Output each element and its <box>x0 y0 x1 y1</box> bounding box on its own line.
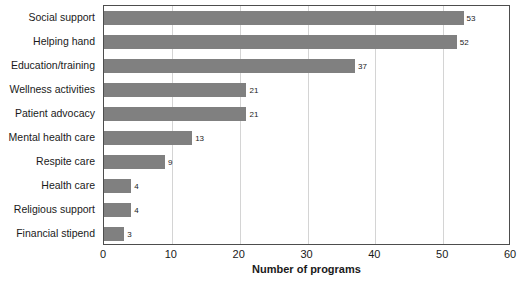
x-tick-label: 20 <box>233 248 245 260</box>
bar[interactable] <box>104 83 246 97</box>
bar-value-label: 3 <box>124 230 131 239</box>
category-label: Patient advocacy <box>0 106 95 120</box>
category-label: Helping hand <box>0 34 95 48</box>
bar[interactable] <box>104 227 124 241</box>
category-label: Religious support <box>0 202 95 216</box>
bar-value-label: 37 <box>355 62 367 71</box>
bar[interactable] <box>104 179 131 193</box>
x-axis-ticks: 0102030405060 <box>103 248 510 264</box>
category-label: Financial stipend <box>0 226 95 240</box>
bar[interactable] <box>104 203 131 217</box>
category-label: Respite care <box>0 154 95 168</box>
bar-value-label: 4 <box>131 206 138 215</box>
bar[interactable] <box>104 59 355 73</box>
category-label: Mental health care <box>0 130 95 144</box>
bar[interactable] <box>104 107 246 121</box>
bar-value-label: 52 <box>457 38 469 47</box>
x-tick-label: 60 <box>504 248 516 260</box>
x-tick-label: 40 <box>368 248 380 260</box>
category-axis: Social supportHelping handEducation/trai… <box>0 5 99 245</box>
category-label: Social support <box>0 10 95 24</box>
bar-chart: Social supportHelping handEducation/trai… <box>0 0 517 281</box>
bar[interactable] <box>104 35 457 49</box>
bar-value-label: 21 <box>246 86 258 95</box>
bar-value-label: 21 <box>246 110 258 119</box>
x-tick-label: 30 <box>300 248 312 260</box>
x-tick-label: 0 <box>100 248 106 260</box>
bar-value-label: 4 <box>131 182 138 191</box>
x-axis-title: Number of programs <box>103 263 510 275</box>
bar-value-label: 9 <box>165 158 172 167</box>
bar-value-label: 13 <box>192 134 204 143</box>
bars-layer: 5352372121139443 <box>104 6 509 244</box>
plot-area: 5352372121139443 <box>103 5 510 245</box>
bar[interactable] <box>104 155 165 169</box>
category-label: Health care <box>0 178 95 192</box>
bar[interactable] <box>104 131 192 145</box>
category-label: Education/training <box>0 58 95 72</box>
bar-value-label: 53 <box>464 14 476 23</box>
x-tick-label: 50 <box>436 248 448 260</box>
category-label: Wellness activities <box>0 82 95 96</box>
x-tick-label: 10 <box>165 248 177 260</box>
bar[interactable] <box>104 11 464 25</box>
